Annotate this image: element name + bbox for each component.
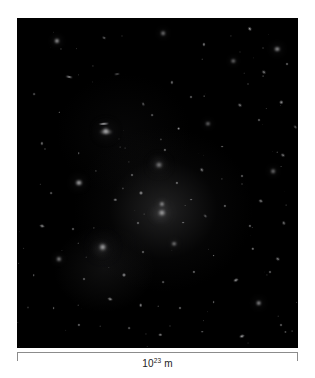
galaxy-compact [212, 300, 215, 303]
scale-exponent: 23 [154, 357, 162, 364]
galaxy-compact [279, 100, 282, 103]
faint-background-source [285, 204, 287, 206]
galaxy-compact [280, 323, 283, 326]
faint-background-source [230, 50, 231, 51]
faint-background-source [134, 210, 135, 211]
faint-background-source [42, 319, 43, 320]
galaxy-compact [223, 205, 226, 208]
faint-background-source [280, 166, 282, 168]
faint-background-source [92, 82, 93, 83]
faint-background-source [59, 112, 60, 113]
galaxy-compact [178, 307, 181, 310]
galaxy-compact [162, 281, 165, 284]
galaxy-spiral-edge-on [65, 76, 72, 80]
faint-background-source [262, 124, 263, 125]
faint-background-source [85, 256, 87, 258]
galaxy-elliptical [270, 169, 275, 173]
faint-background-source [146, 346, 148, 348]
galaxy-compact [177, 127, 181, 131]
galaxy-compact [131, 173, 134, 176]
faint-background-source [277, 315, 279, 317]
faint-background-source [200, 61, 201, 62]
faint-background-source [130, 201, 131, 202]
faint-background-source [239, 51, 241, 53]
faint-background-source [122, 187, 124, 189]
faint-background-source [63, 128, 64, 129]
galaxy-compact [32, 92, 35, 95]
faint-background-source [77, 305, 79, 307]
galaxy-cluster-image [17, 18, 298, 348]
galaxy-elliptical [99, 129, 112, 134]
faint-background-source [291, 330, 293, 332]
galaxy-spiral-edge-on [114, 73, 120, 76]
faint-background-source [123, 130, 124, 131]
galaxy-elliptical-bright [102, 128, 108, 134]
galaxy-spiral-edge-on [233, 278, 239, 283]
galaxy-elliptical [159, 202, 164, 207]
faint-background-source [115, 332, 116, 333]
faint-background-source [78, 75, 79, 76]
galaxy-spiral-edge-on [280, 153, 285, 157]
faint-background-source [73, 49, 74, 50]
galaxy-elliptical [205, 121, 210, 126]
faint-background-source [134, 278, 135, 279]
galaxy-compact [251, 247, 254, 250]
galaxy-spiral-edge-on [99, 122, 110, 125]
galaxy-spiral-edge-on [203, 214, 207, 218]
faint-background-source [253, 57, 254, 58]
galaxy-compact [221, 145, 224, 148]
galaxy-compact [163, 148, 166, 151]
faint-background-source [76, 48, 77, 49]
galaxy-elliptical-bright [99, 244, 107, 251]
galaxy-compact [150, 114, 153, 117]
faint-background-source [19, 231, 20, 232]
scale-unit: m [164, 358, 173, 369]
faint-background-source [207, 311, 208, 312]
faint-background-source [23, 248, 25, 250]
galaxy-elliptical-bright [156, 162, 162, 167]
faint-background-source [44, 148, 46, 150]
galaxy-compact [33, 274, 36, 277]
faint-background-source [241, 183, 243, 185]
galaxy-spiral-edge-on [248, 27, 253, 32]
faint-background-source [66, 166, 67, 167]
faint-background-source [108, 267, 109, 268]
faint-background-source [41, 153, 42, 154]
galaxy-compact [201, 330, 204, 333]
faint-background-source [184, 160, 185, 161]
galaxy-halo [150, 156, 166, 170]
galaxy-elliptical [172, 242, 177, 246]
faint-background-source [91, 117, 92, 118]
galaxy-elliptical [256, 301, 262, 306]
galaxy-spiral-edge-on [276, 256, 281, 261]
faint-background-source [78, 242, 80, 244]
faint-background-source [119, 147, 121, 149]
scale-bar-line [17, 352, 298, 353]
faint-background-source [18, 263, 20, 265]
faint-background-source [187, 50, 188, 51]
galaxy-compact [285, 63, 288, 66]
galaxy-compact [142, 251, 145, 254]
galaxy-compact [190, 96, 193, 99]
scale-bar-label: 1023m [0, 358, 315, 369]
galaxy-compact [249, 224, 252, 227]
faint-background-source [145, 333, 147, 335]
faint-background-source [87, 85, 88, 86]
galaxy-compact [212, 254, 215, 257]
faint-background-source [262, 47, 264, 49]
galaxy-spiral-edge-on [200, 167, 205, 172]
faint-background-source [244, 73, 246, 75]
faint-background-source [128, 161, 130, 163]
galaxy-compact [192, 271, 195, 274]
faint-background-source [211, 66, 212, 67]
galaxy-elliptical [54, 39, 59, 44]
faint-background-source [266, 108, 268, 110]
galaxy-compact [122, 273, 126, 277]
faint-background-source [160, 138, 162, 140]
faint-background-source [171, 47, 172, 48]
galaxy-compact [190, 198, 193, 201]
faint-background-source [208, 249, 210, 251]
faint-background-source [200, 167, 201, 168]
faint-background-source [229, 329, 230, 330]
galaxy-compact [202, 43, 205, 46]
